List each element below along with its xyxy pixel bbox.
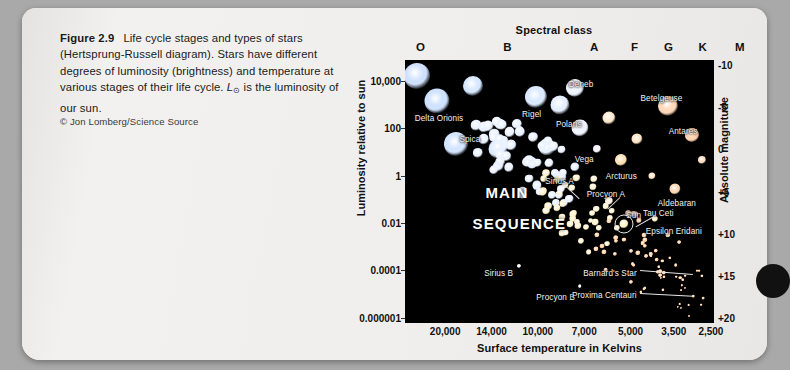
x-axis-tick: 5,000 [618, 326, 643, 337]
main-sequence-star [654, 249, 658, 253]
spectral-class-tick: F [631, 41, 638, 53]
main-sequence-star [677, 240, 681, 244]
main-sequence-star [668, 256, 671, 259]
main-sequence-star [675, 276, 677, 278]
main-sequence-star [698, 270, 701, 273]
main-sequence-star [643, 244, 647, 248]
main-sequence-star [613, 252, 617, 256]
region-label: MAIN [485, 183, 528, 200]
x-axis-tick: 20,000 [430, 326, 461, 337]
main-sequence-star [643, 288, 646, 291]
main-sequence-star [502, 152, 511, 161]
star-arcturus [616, 154, 627, 165]
main-sequence-star [687, 303, 690, 306]
star-sirius-b [517, 264, 521, 268]
star-label: Deneb [569, 80, 594, 89]
main-sequence-star [674, 264, 678, 268]
main-sequence-star [590, 210, 596, 216]
main-sequence-star [681, 284, 683, 286]
main-sequence-star [471, 120, 482, 131]
giant-star [593, 145, 601, 153]
main-sequence-star [678, 303, 681, 306]
giant-star [405, 63, 430, 89]
y-axis-right-tick: +15 [718, 270, 735, 281]
main-sequence-star [607, 219, 612, 224]
star-barnard-s-star [700, 274, 703, 277]
book-page: Figure 2.9Life cycle stages and types of… [22, 8, 767, 360]
plot-area: Delta OrionisSpicaRigelDenebPolarisBetel… [405, 60, 714, 323]
y-axis-right-tick: +20 [718, 312, 735, 323]
page-binding-dot [756, 264, 790, 298]
star-label: Betelgeuse [640, 94, 682, 103]
main-sequence-star [578, 238, 584, 244]
y-axis-left-tick: 10,000 [370, 76, 401, 87]
y-axis-left-tick: 0.000001 [359, 312, 401, 323]
main-sequence-star [680, 289, 682, 291]
main-sequence-star [567, 221, 574, 228]
main-sequence-star [654, 257, 659, 262]
star-label: Antares [669, 127, 698, 136]
spectral-class-tick: K [698, 41, 706, 53]
star-rigel [527, 87, 546, 106]
figure-caption: Figure 2.9Life cycle stages and types of… [60, 30, 348, 116]
main-sequence-star [661, 260, 664, 263]
main-sequence-star [504, 127, 515, 138]
main-sequence-star [590, 175, 597, 182]
spectral-class-tick-row: OBAFGKM [405, 41, 715, 57]
main-sequence-star [574, 219, 580, 225]
main-sequence-star [662, 289, 665, 292]
main-sequence-star [680, 307, 682, 309]
main-sequence-star [515, 126, 525, 136]
hr-diagram: Spectral class OBAFGKM Luminosity relati… [339, 22, 739, 352]
main-sequence-star [525, 175, 534, 184]
star-label: Rigel [522, 110, 541, 119]
star-sirius-a [557, 185, 565, 193]
star-label: Spica [459, 135, 480, 144]
giant-star [631, 133, 642, 144]
main-sequence-star [537, 141, 546, 150]
spectral-class-tick: G [664, 41, 673, 53]
y-axis-left-tick: 0.0001 [370, 265, 401, 276]
main-sequence-star [650, 254, 653, 257]
spectral-class-tick: M [735, 41, 745, 53]
x-axis-tick: 2,500 [698, 326, 723, 337]
star-procyon-b [578, 284, 582, 288]
main-sequence-star [586, 249, 592, 255]
main-sequence-star [684, 287, 686, 289]
main-sequence-star [473, 148, 483, 158]
x-axis-tick: 7,000 [572, 326, 597, 337]
main-sequence-star [588, 218, 594, 224]
figure-number: Figure 2.9 [60, 32, 114, 44]
figure-credit: © Jon Lomberg/Science Source [60, 116, 360, 127]
main-sequence-star [559, 200, 566, 207]
main-sequence-star [571, 210, 577, 216]
giant-star [602, 111, 615, 124]
label-leader-line [640, 293, 693, 297]
main-sequence-star [632, 263, 636, 267]
y-axis-left-tick: 100 [384, 123, 401, 134]
main-sequence-star [605, 241, 611, 247]
main-sequence-star [692, 295, 694, 297]
star-aldebaran [670, 184, 680, 194]
main-sequence-star [583, 224, 589, 230]
star-label: Vega [575, 155, 594, 164]
main-sequence-star [543, 207, 550, 214]
main-sequence-star [545, 159, 554, 168]
spectral-class-tick: A [590, 41, 598, 53]
main-sequence-star [600, 244, 605, 249]
main-sequence-star [645, 254, 649, 258]
sun-highlight-ring [615, 215, 634, 234]
star-delta-orionis [426, 90, 448, 112]
main-sequence-star [629, 249, 633, 253]
region-label: SEQUENCE [472, 215, 566, 232]
main-sequence-star [528, 132, 538, 142]
spectral-class-tick: O [416, 41, 425, 53]
main-sequence-star [629, 280, 633, 284]
spectral-class-title: Spectral class [399, 24, 709, 36]
star-label: Proxima Centauri [572, 291, 637, 300]
main-sequence-star [609, 208, 615, 214]
giant-star [649, 172, 656, 179]
x-axis-tick: 10,000 [523, 326, 554, 337]
star-label: Delta Orionis [415, 114, 464, 123]
spectral-class-tick: B [503, 41, 511, 53]
